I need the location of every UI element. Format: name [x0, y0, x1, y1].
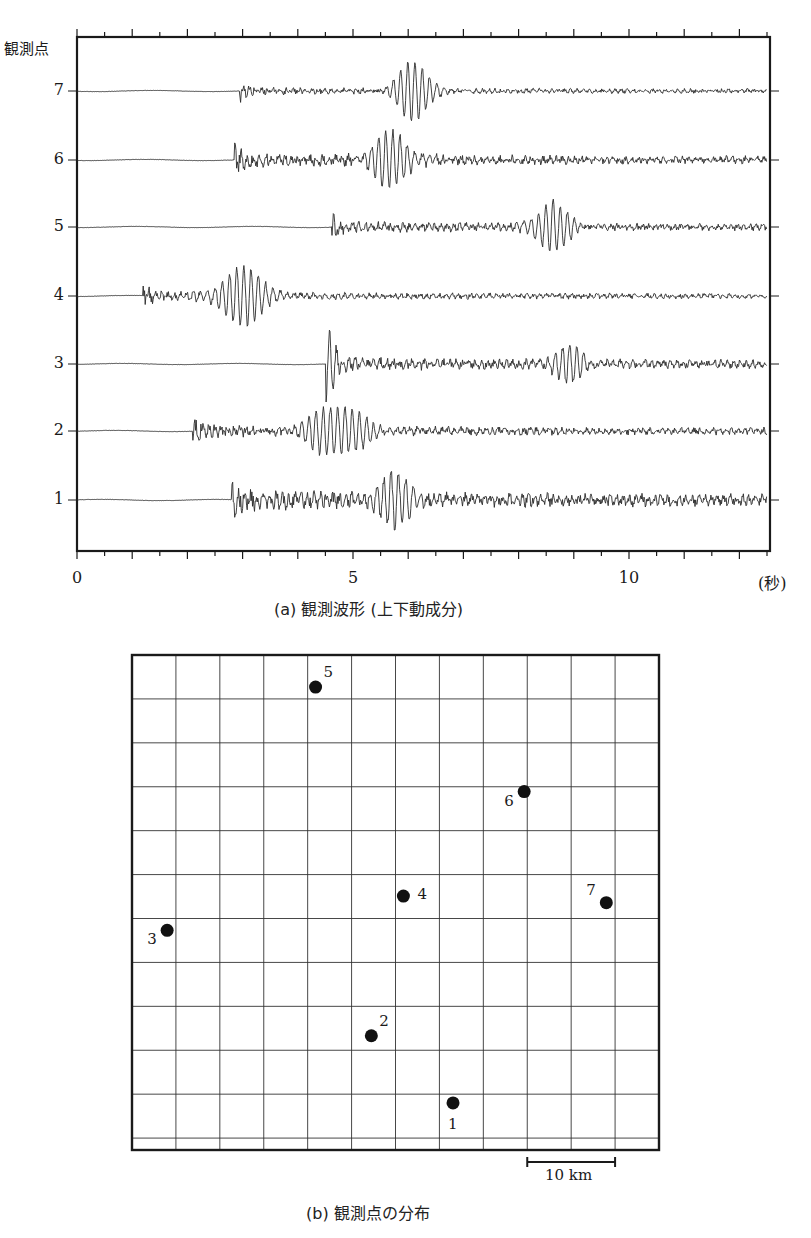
figure-b-caption: (b) 観測点の分布	[306, 1200, 430, 1224]
station-marker-5	[309, 681, 322, 694]
figure-a-waveforms: 観測点 7654321 0510 (秒) (a) 観測波形 (上下動成分)	[0, 0, 811, 640]
station-map-grid	[0, 640, 811, 1238]
waveform-station-5	[77, 199, 767, 251]
x-unit-label: (秒)	[758, 570, 786, 594]
figure-b-station-map: 1234567 10 km (b) 観測点の分布	[0, 640, 811, 1238]
waveform-station-7	[77, 62, 767, 120]
station-label-7: 7	[38, 80, 64, 99]
station-marker-label-6: 6	[504, 792, 514, 810]
x-tick-label: 0	[72, 568, 82, 587]
waveform-station-4	[77, 266, 767, 327]
figure-a-caption: (a) 観測波形 (上下動成分)	[274, 596, 463, 620]
station-marker-label-5: 5	[324, 663, 334, 681]
station-marker-3	[161, 924, 174, 937]
station-marker-4	[397, 890, 410, 903]
x-tick-label: 10	[619, 568, 639, 587]
station-marker-2	[365, 1029, 378, 1042]
station-marker-1	[447, 1096, 460, 1109]
waveform-station-1	[77, 472, 767, 531]
station-label-1: 1	[38, 489, 64, 508]
waveform-plot	[0, 0, 811, 640]
x-tick-label: 5	[348, 568, 358, 587]
waveform-station-3	[77, 330, 767, 402]
station-label-6: 6	[38, 149, 64, 168]
station-marker-label-7: 7	[586, 881, 596, 899]
station-marker-label-1: 1	[448, 1115, 458, 1133]
station-marker-6	[518, 785, 531, 798]
waveform-station-6	[77, 129, 767, 187]
y-axis-title: 観測点	[4, 37, 49, 58]
station-marker-label-3: 3	[147, 930, 157, 948]
station-label-4: 4	[38, 285, 64, 304]
station-label-2: 2	[38, 420, 64, 439]
waveform-station-2	[77, 407, 767, 456]
station-marker-label-4: 4	[417, 885, 427, 903]
scale-bar-label: 10 km	[545, 1166, 592, 1184]
station-marker-label-2: 2	[379, 1012, 389, 1030]
station-label-3: 3	[38, 353, 64, 372]
station-marker-7	[600, 896, 613, 909]
station-label-5: 5	[38, 216, 64, 235]
